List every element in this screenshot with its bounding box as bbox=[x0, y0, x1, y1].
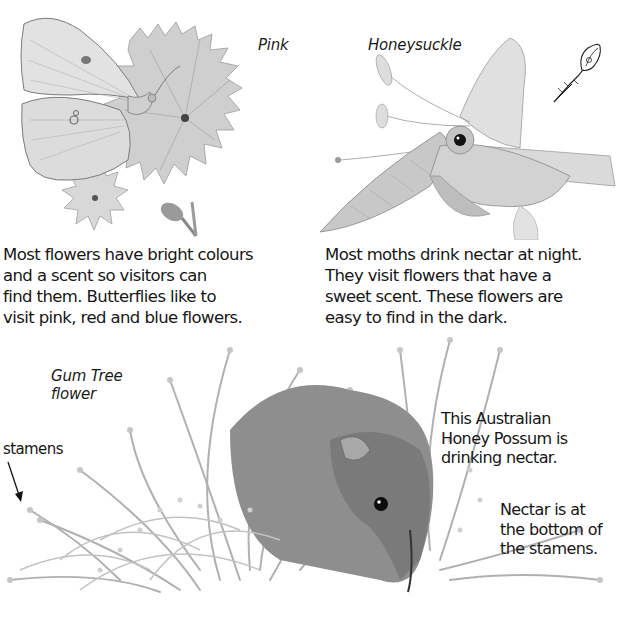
caption-nectar: Nectar is at the bottom of the stamens. bbox=[500, 500, 619, 559]
cut-off-text: ... of food. They ... bbox=[330, 618, 619, 622]
label-gum-tree-flower: Gum Tree flower bbox=[51, 367, 123, 403]
label-stamens: stamens bbox=[3, 440, 63, 460]
flower-bud-sketch-icon bbox=[548, 40, 608, 104]
caption-moths: Most moths drink nectar at night. They v… bbox=[325, 244, 619, 328]
caption-possum: This Australian Honey Possum is drinking… bbox=[441, 409, 619, 468]
butterfly-flower-drawing bbox=[0, 0, 300, 240]
arrow-down-right-icon bbox=[6, 460, 26, 504]
cut-off-text-line: ... of food. They ... bbox=[330, 616, 619, 622]
label-pink: Pink bbox=[258, 36, 289, 54]
butterfly-pink-illustration bbox=[0, 0, 300, 240]
caption-butterflies: Most flowers have bright colours and a s… bbox=[3, 244, 303, 328]
